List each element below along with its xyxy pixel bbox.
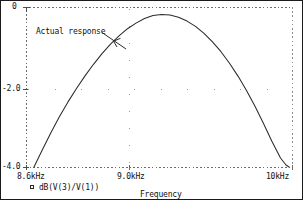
square-marker-icon [31, 186, 34, 189]
y-tick-label-minus2: -2.0 [2, 85, 20, 93]
x-axis-title: Frequency [140, 191, 182, 199]
x-tick-label-start: 8.6kHz [17, 173, 45, 181]
y-tick-label-minus4: -4.0 [2, 163, 20, 171]
annotation-actual-response: Actual response [36, 28, 105, 36]
legend-trace-label[interactable]: dB(V(3)/V(1)) [39, 184, 99, 192]
x-tick-label-end: 10kHz [266, 173, 289, 181]
x-tick-label-mid: 9.0kHz [117, 173, 145, 181]
response-curve [34, 14, 289, 167]
y-tick-label-0: 0 [12, 3, 17, 11]
spice-plot-window: 0 -2.0 -4.0 8.6kHz 9.0kHz 10kHz dB(V(3)/… [0, 0, 303, 200]
